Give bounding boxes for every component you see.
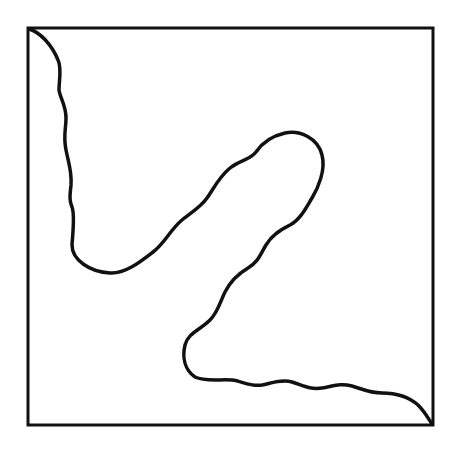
wavy-curve (29, 29, 432, 424)
square-frame (28, 28, 433, 425)
diagram-canvas (0, 0, 460, 451)
